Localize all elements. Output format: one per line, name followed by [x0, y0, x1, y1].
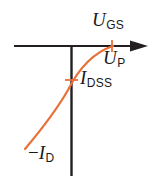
pinch-off-voltage-label: UP: [103, 48, 125, 69]
idss-subscript: DSS: [87, 76, 112, 90]
up-symbol: U: [103, 47, 117, 68]
idss-label: IDSS: [80, 68, 112, 89]
id-symbol: I: [39, 142, 45, 163]
x-axis-label-ugs: UGS: [92, 10, 124, 31]
x-axis-arrowhead: [130, 41, 148, 52]
up-subscript: P: [117, 56, 125, 70]
y-axis-label-drain-current: −ID: [28, 143, 54, 164]
ugs-subscript: GS: [106, 18, 124, 32]
idss-symbol: I: [80, 67, 86, 88]
id-minus-sign: −: [28, 142, 39, 163]
transfer-curve: [25, 46, 113, 149]
id-subscript: D: [46, 151, 55, 165]
plot-canvas: [0, 0, 158, 185]
jfet-transfer-characteristic-figure: UGS UP IDSS −ID: [0, 0, 158, 185]
ugs-symbol: U: [92, 9, 106, 30]
